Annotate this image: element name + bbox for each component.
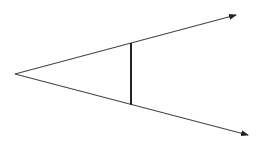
diagram-canvas bbox=[0, 0, 259, 141]
upper-ray bbox=[15, 15, 236, 74]
angle-diagram bbox=[0, 0, 259, 141]
